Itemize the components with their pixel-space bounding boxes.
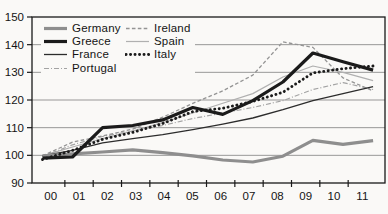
legend-sample-ireland [125, 22, 150, 35]
x-tick-label-01: 01 [73, 190, 86, 202]
legend-label-ireland: Ireland [154, 22, 191, 35]
legend-label-portugal: Portugal [72, 62, 121, 75]
x-tick-label-06: 06 [214, 190, 227, 202]
legend-empty-cell [125, 62, 150, 75]
legend-sample-spain [125, 35, 150, 48]
legend-label-italy: Italy [154, 48, 191, 61]
y-tick-label-110: 110 [6, 122, 24, 134]
legend-label-france: France [72, 48, 121, 61]
series-line-germany [43, 140, 374, 162]
legend-label-greece: Greece [72, 35, 121, 48]
series-line-france [43, 87, 374, 156]
y-tick-label-130: 130 [5, 66, 24, 78]
y-tick-label-90: 90 [11, 177, 24, 189]
legend-sample-france [43, 48, 68, 61]
legend-label-germany: Germany [72, 22, 121, 35]
legend-sample-italy [125, 48, 150, 61]
x-tick-label-02: 02 [101, 190, 114, 202]
x-tick-label-10: 10 [328, 190, 341, 202]
chart-legend: Germany Ireland Greece Spain France Ital… [41, 21, 195, 76]
x-tick-label-08: 08 [271, 190, 284, 202]
line-chart-figure: 9010011012013014015000010203040506070809… [0, 0, 388, 214]
y-tick-label-100: 100 [5, 149, 24, 161]
x-tick-label-03: 03 [129, 190, 142, 202]
y-tick-label-150: 150 [5, 11, 24, 23]
y-tick-label-140: 140 [5, 39, 24, 51]
y-tick-label-120: 120 [5, 94, 24, 106]
x-tick-label-00: 00 [44, 190, 57, 202]
legend-sample-germany [43, 22, 68, 35]
legend-label-spain: Spain [154, 35, 191, 48]
legend-sample-portugal [43, 62, 68, 75]
x-tick-label-09: 09 [299, 190, 312, 202]
x-tick-label-04: 04 [158, 190, 171, 202]
legend-sample-greece [43, 35, 68, 48]
x-tick-label-05: 05 [186, 190, 199, 202]
x-tick-label-11: 11 [356, 190, 368, 202]
legend-empty-cell [154, 62, 191, 75]
x-tick-label-07: 07 [243, 190, 256, 202]
